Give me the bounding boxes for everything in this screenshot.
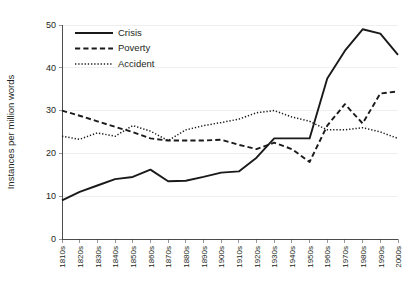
x-tick-label: 1910s [235, 246, 244, 268]
x-tick-label: 1940s [288, 246, 297, 268]
x-tick-label: 1840s [111, 246, 120, 268]
x-tick-label: 1990s [377, 246, 386, 268]
x-tick-label: 1950s [306, 246, 315, 268]
chart-legend: CrisisPovertyAccident [75, 27, 155, 69]
y-tick-label: 10 [46, 191, 56, 201]
series-line-poverty [62, 91, 398, 162]
x-tick-label: 1970s [341, 246, 350, 268]
x-tick-label: 1820s [76, 246, 85, 268]
y-tick-label: 30 [46, 105, 56, 115]
x-tick-label: 1860s [147, 246, 156, 268]
legend-label: Accident [118, 58, 155, 69]
x-tick-label: 1870s [164, 246, 173, 268]
legend-item-crisis: Crisis [75, 27, 142, 38]
x-axis-ticks-group: 1810s1820s1830s1840s1850s1860s1870s1880s… [58, 239, 403, 268]
x-tick-label: 1810s [58, 246, 67, 268]
x-tick-label: 2000s [394, 246, 403, 268]
x-tick-label: 1960s [323, 246, 332, 268]
line-chart-figure: 01020304050 1810s1820s1830s1840s1850s186… [0, 0, 418, 286]
y-tick-label: 40 [46, 63, 56, 73]
series-line-crisis [62, 29, 398, 200]
legend-label: Crisis [118, 27, 142, 38]
y-tick-label: 0 [51, 234, 56, 244]
x-tick-label: 1850s [129, 246, 138, 268]
y-tick-label: 20 [46, 148, 56, 158]
legend-item-accident: Accident [75, 58, 155, 69]
legend-label: Poverty [118, 42, 150, 53]
x-tick-label: 1930s [270, 246, 279, 268]
legend-item-poverty: Poverty [75, 42, 150, 53]
y-tick-label: 50 [46, 20, 56, 30]
x-tick-label: 1880s [182, 246, 191, 268]
y-axis-ticks-group: 01020304050 [46, 20, 62, 244]
x-tick-label: 1900s [217, 246, 226, 268]
data-series-group [62, 29, 398, 200]
x-tick-label: 1920s [253, 246, 262, 268]
x-tick-label: 1830s [94, 246, 103, 268]
x-tick-label: 1980s [359, 246, 368, 268]
y-axis-title: Instances per million words [5, 74, 16, 189]
chart-svg: 01020304050 1810s1820s1830s1840s1850s186… [0, 0, 418, 286]
x-tick-label: 1890s [200, 246, 209, 268]
axis-lines-group [62, 25, 398, 239]
gridlines-group [62, 25, 398, 239]
